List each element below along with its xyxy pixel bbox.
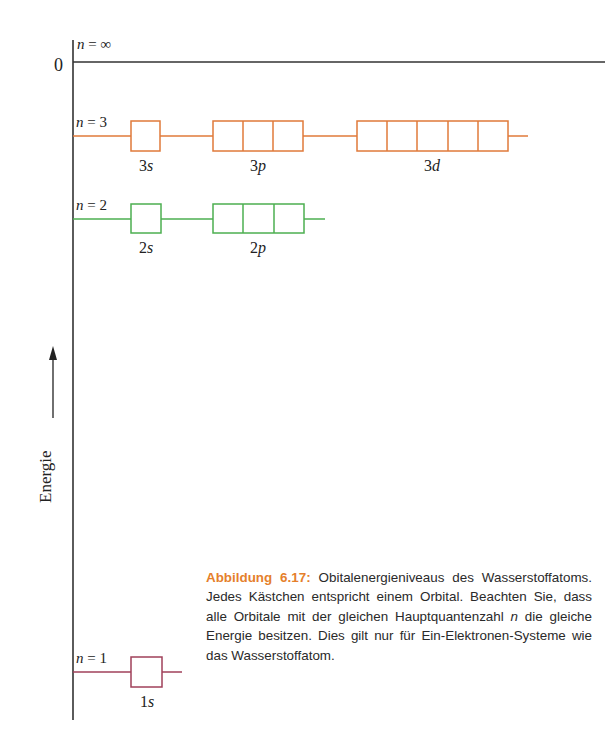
level-value: 1 (99, 650, 107, 666)
orbital-group-3d (357, 121, 508, 151)
level-value: 2 (99, 197, 107, 213)
orbital-n: 3 (250, 157, 258, 174)
level-eq: = (84, 650, 100, 666)
level-var: n (76, 114, 84, 130)
orbital-n: 3 (139, 157, 147, 174)
orbital-l: p (258, 157, 266, 174)
orbital-box-1s (131, 657, 162, 687)
level-label-n2: n = 2 (76, 197, 107, 214)
orbital-label-1s: 1s (127, 693, 167, 711)
figure-number: Abbildung 6.17: (206, 570, 311, 585)
level-label-n-infinity: n = ∞ (77, 36, 111, 53)
level-value: 3 (99, 114, 107, 130)
orbital-l: d (432, 157, 440, 174)
figure-caption: Abbildung 6.17: Obitalenergieniveaus des… (206, 568, 592, 665)
orbital-label-3p: 3p (238, 157, 278, 175)
level-label-n1: n = 1 (76, 650, 107, 667)
level-label-n3: n = 3 (76, 114, 107, 131)
orbital-label-3d: 3d (412, 157, 452, 175)
level-eq: = (85, 36, 101, 52)
energy-arrow (49, 346, 57, 418)
orbital-l: s (147, 239, 153, 256)
level-value: ∞ (100, 36, 111, 52)
orbital-label-3s: 3s (126, 157, 166, 175)
orbital-box-3s (131, 121, 160, 151)
caption-italic-n: n (511, 609, 518, 624)
orbital-label-2s: 2s (126, 239, 166, 257)
orbital-n: 2 (139, 239, 147, 256)
orbital-label-2p: 2p (238, 239, 278, 257)
energy-zero-label: 0 (54, 55, 63, 76)
level-n3 (73, 121, 528, 151)
orbital-group-2p (213, 204, 304, 233)
orbital-l: s (147, 157, 153, 174)
level-var: n (76, 650, 84, 666)
energy-axis-label: Energie (36, 450, 56, 503)
level-eq: = (84, 114, 100, 130)
level-eq: = (84, 197, 100, 213)
level-var: n (76, 197, 84, 213)
orbital-box-2s (131, 204, 161, 233)
level-n2 (73, 204, 325, 233)
orbital-n: 2 (250, 239, 258, 256)
level-var: n (77, 36, 85, 52)
orbital-n: 3 (424, 157, 432, 174)
orbital-n: 1 (140, 693, 148, 710)
orbital-group-3p (213, 121, 303, 151)
orbital-l: s (148, 693, 154, 710)
orbital-l: p (258, 239, 266, 256)
